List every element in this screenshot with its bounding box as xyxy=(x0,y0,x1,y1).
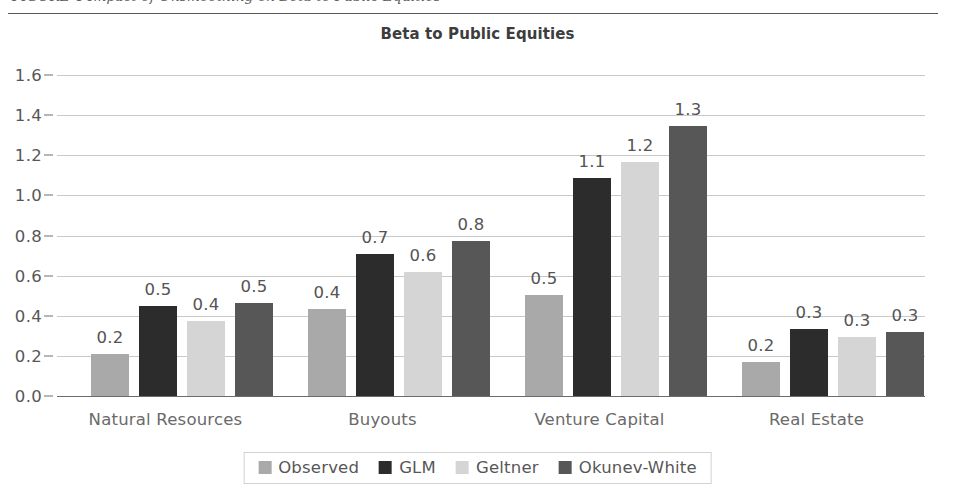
bar-value-label: 0.5 xyxy=(224,277,284,296)
y-axis-tick-label: 0.4 xyxy=(0,306,42,325)
y-axis-tick-label: 0.0 xyxy=(0,387,42,406)
bar xyxy=(838,337,876,396)
y-tick-mark xyxy=(44,235,53,236)
bar xyxy=(742,362,780,396)
bar xyxy=(573,178,611,396)
y-tick-mark xyxy=(44,195,53,196)
bar-value-label: 0.4 xyxy=(176,295,236,314)
chart-legend: ObservedGLMGeltnerOkunev-White xyxy=(243,452,712,484)
bar-value-label: 0.7 xyxy=(345,228,405,247)
bar xyxy=(886,332,924,396)
chart-title: Beta to Public Equities xyxy=(0,25,955,43)
x-axis-category-label: Venture Capital xyxy=(491,410,708,429)
y-tick-mark xyxy=(44,315,53,316)
page-caption: FIGURE 4 Impact of Unsmoothing on Beta t… xyxy=(0,0,955,14)
bar-value-label: 0.4 xyxy=(297,283,357,302)
bar-value-label: 0.2 xyxy=(80,328,140,347)
bar xyxy=(356,254,394,396)
legend-swatch-icon xyxy=(379,461,392,474)
axis-baseline xyxy=(57,396,925,397)
y-axis-tick-label: 0.8 xyxy=(0,226,42,245)
x-axis-category-label: Buyouts xyxy=(274,410,491,429)
y-tick-mark xyxy=(44,155,53,156)
y-tick-mark xyxy=(44,75,53,76)
gridline xyxy=(57,75,925,76)
bar-value-label: 0.5 xyxy=(514,269,574,288)
bar xyxy=(187,321,225,396)
y-axis-tick-label: 0.6 xyxy=(0,266,42,285)
bar-value-label: 0.2 xyxy=(731,336,791,355)
bar xyxy=(790,329,828,396)
legend-item: Okunev-White xyxy=(559,458,697,477)
y-tick-mark xyxy=(44,115,53,116)
caption-divider-rule xyxy=(8,13,938,14)
y-axis-tick-label: 1.6 xyxy=(0,66,42,85)
bar-value-label: 0.8 xyxy=(441,215,501,234)
x-axis-category-label: Real Estate xyxy=(708,410,925,429)
bar xyxy=(669,126,707,396)
bar xyxy=(525,295,563,396)
bar xyxy=(235,303,273,396)
bar xyxy=(621,162,659,396)
y-tick-mark xyxy=(44,396,53,397)
y-axis-tick-label: 1.4 xyxy=(0,106,42,125)
bar xyxy=(91,354,129,396)
y-axis-tick-label: 0.2 xyxy=(0,346,42,365)
legend-swatch-icon xyxy=(258,461,271,474)
legend-label: Observed xyxy=(278,458,359,477)
legend-item: Geltner xyxy=(456,458,539,477)
x-axis-category-label: Natural Resources xyxy=(57,410,274,429)
y-axis-tick-label: 1.0 xyxy=(0,186,42,205)
gridline xyxy=(57,236,925,237)
legend-swatch-icon xyxy=(559,461,572,474)
bar-value-label: 0.6 xyxy=(393,246,453,265)
y-axis: 0.00.20.40.60.81.01.21.41.6 xyxy=(0,75,57,396)
y-tick-mark xyxy=(44,355,53,356)
bar xyxy=(404,272,442,396)
bar-value-label: 1.3 xyxy=(658,100,718,119)
gridline xyxy=(57,115,925,116)
bar xyxy=(452,241,490,396)
bar-value-label: 0.3 xyxy=(875,306,935,325)
legend-item: GLM xyxy=(379,458,436,477)
figure-container: Beta to Public Equities 0.00.20.40.60.81… xyxy=(0,16,955,498)
bar xyxy=(139,306,177,396)
bar-value-label: 1.2 xyxy=(610,136,670,155)
legend-label: Okunev-White xyxy=(579,458,697,477)
gridline xyxy=(57,155,925,156)
page-caption-text: FIGURE 4 Impact of Unsmoothing on Beta t… xyxy=(12,0,441,4)
bar xyxy=(308,309,346,396)
y-axis-tick-label: 1.2 xyxy=(0,146,42,165)
legend-label: Geltner xyxy=(476,458,539,477)
legend-item: Observed xyxy=(258,458,359,477)
plot-area: 0.20.50.40.5Natural Resources0.40.70.60.… xyxy=(57,75,925,396)
gridline xyxy=(57,195,925,196)
legend-label: GLM xyxy=(399,458,436,477)
y-tick-mark xyxy=(44,275,53,276)
legend-swatch-icon xyxy=(456,461,469,474)
gridline xyxy=(57,276,925,277)
